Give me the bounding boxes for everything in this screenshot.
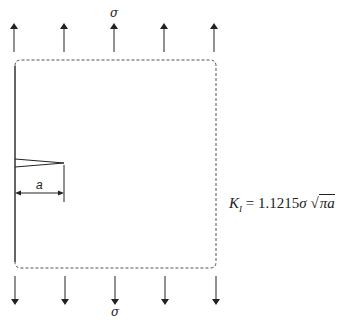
equation-k: K bbox=[229, 195, 239, 211]
plate-boundary bbox=[15, 60, 216, 268]
edge-crack bbox=[15, 159, 64, 167]
radical-icon: √ bbox=[310, 195, 318, 211]
bottom-tension-arrows bbox=[15, 276, 216, 302]
top-tension-arrows bbox=[14, 26, 214, 52]
equation-coefficient: 1.1215 bbox=[258, 195, 299, 211]
stress-intensity-equation: KI = 1.1215σ √πa bbox=[229, 195, 335, 214]
edge-crack-diagram: σ a σ bbox=[0, 0, 341, 326]
bottom-stress-label: σ bbox=[111, 305, 120, 319]
equation-radicand: πa bbox=[319, 194, 335, 211]
top-stress-label: σ bbox=[110, 6, 119, 20]
equation-sigma: σ bbox=[299, 195, 306, 211]
equation-subscript: I bbox=[239, 204, 242, 214]
equation-equals: = bbox=[246, 195, 254, 211]
crack-length-label: a bbox=[36, 178, 43, 192]
